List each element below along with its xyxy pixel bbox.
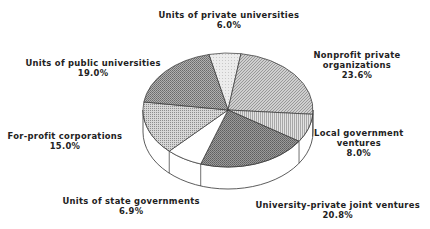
pie-chart — [0, 0, 430, 229]
label-text: Local government — [314, 128, 404, 138]
label-value: 8.0% — [314, 148, 404, 158]
data-label-for-profit-corporations: For-profit corporations15.0% — [8, 131, 123, 151]
label-text: University-private joint ventures — [256, 200, 421, 210]
data-label-units-of-state-governments: Units of state governments6.9% — [63, 196, 200, 216]
label-value: 19.0% — [26, 68, 161, 78]
label-value: 20.8% — [256, 210, 421, 220]
label-text: Nonprofit private — [314, 50, 401, 60]
label-text: organizations — [314, 60, 401, 70]
label-text: Units of public universities — [26, 58, 161, 68]
label-value: 6.0% — [159, 20, 300, 30]
data-label-local-government-ventures: Local governmentventures8.0% — [314, 128, 404, 158]
data-label-nonprofit-private-organizations: Nonprofit privateorganizations23.6% — [314, 50, 401, 80]
label-text: For-profit corporations — [8, 131, 123, 141]
label-text: Units of private universities — [159, 10, 300, 20]
label-text: Units of state governments — [63, 196, 200, 206]
pie-slice-nonprofit-private-organizations — [228, 54, 313, 115]
data-label-units-of-public-universities: Units of public universities19.0% — [26, 58, 161, 78]
data-label-units-of-private-universities: Units of private universities6.0% — [159, 10, 300, 30]
label-text: ventures — [314, 138, 404, 148]
label-value: 23.6% — [314, 70, 401, 80]
data-label-university-private-joint-ventures: University-private joint ventures20.8% — [256, 200, 421, 220]
label-value: 15.0% — [8, 141, 123, 151]
label-value: 6.9% — [63, 206, 200, 216]
